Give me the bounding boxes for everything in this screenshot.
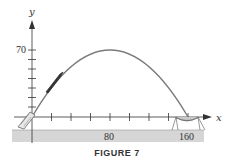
projectile-icon xyxy=(46,72,63,93)
x-tick-label-80: 80 xyxy=(104,131,114,142)
y-axis-label: y xyxy=(28,6,35,17)
figure-caption: FIGURE 7 xyxy=(0,148,234,158)
y-axis-arrow-icon xyxy=(29,20,35,29)
x-axis-label: x xyxy=(216,112,222,123)
x-axis-arrow-icon xyxy=(203,114,212,120)
projectile-diagram: x y 70 80 160 xyxy=(0,0,234,162)
net-icon xyxy=(172,117,205,130)
cannon-icon xyxy=(18,112,35,129)
x-tick-label-160: 160 xyxy=(179,131,194,142)
y-tick-label-70: 70 xyxy=(16,44,26,55)
